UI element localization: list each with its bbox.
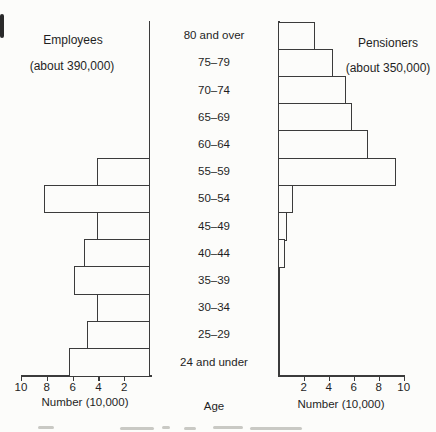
age-label-24-and-under: 24 and under [180,356,248,368]
bar-employees-30-34 [97,294,150,323]
bar-pensioners-65-69 [278,103,352,132]
left-axis-tick-label-6: 6 [69,381,75,393]
right-x-axis-title: Number (10,000) [298,398,385,410]
bar-employees-24-and-under [69,348,150,377]
bar-pensioners-60-64 [278,130,368,159]
right-axis-tick-label-8: 8 [376,381,382,393]
age-label-35-39: 35–39 [198,274,230,286]
bar-employees-25-29 [87,321,150,350]
right-axis-tick-label-4: 4 [326,381,332,393]
bar-employees-55-59 [97,158,150,187]
age-axis-title: Age [204,400,224,412]
left-axis-tick-label-8: 8 [44,381,50,393]
bar-employees-35-39 [74,266,150,295]
age-label-60-64: 60–64 [198,138,230,150]
right-chart-subtitle: (about 350,000) [346,61,431,75]
cropped-caption-fragment [38,426,54,429]
left-axis-tick-label-2: 2 [121,381,127,393]
right-axis-tick-label-6: 6 [351,381,357,393]
age-label-55-59: 55–59 [198,165,230,177]
population-pyramid-figure: Employees (about 390,000) Pensioners (ab… [0,0,436,432]
right-chart-title: Pensioners [358,36,418,50]
cropped-caption-fragment [162,426,170,429]
bar-pensioners-45-49 [278,212,287,241]
age-label-50-54: 50–54 [198,192,230,204]
bar-pensioners-55-59 [278,158,396,187]
left-axis-tick-label-10: 10 [15,381,28,393]
bar-pensioners-70-74 [278,76,346,105]
page-edge-scan-artifact [0,14,4,38]
cropped-caption-fragment [120,427,154,430]
left-x-axis-title: Number (10,000) [42,396,129,408]
bar-pensioners-50-54 [278,185,293,214]
bar-pensioners-80-and-over [278,22,315,51]
age-label-40-44: 40–44 [198,247,230,259]
bar-pensioners-40-44 [278,239,285,268]
right-axis-tick-label-2: 2 [301,381,307,393]
cropped-caption-fragment [213,426,243,429]
age-label-45-49: 45–49 [198,220,230,232]
left-chart-subtitle: (about 390,000) [30,59,115,73]
age-label-70-74: 70–74 [198,84,230,96]
bar-pensioners-75-79 [278,49,333,78]
left-axis-tick-label-4: 4 [95,381,101,393]
age-label-75-79: 75–79 [198,56,230,68]
age-label-65-69: 65–69 [198,111,230,123]
age-label-25-29: 25–29 [198,328,230,340]
right-axis-tick-label-10: 10 [397,381,410,393]
bar-employees-40-44 [84,239,150,268]
bar-employees-45-49 [97,212,150,241]
left-chart-title: Employees [43,33,102,47]
right-chart-baseline-axis [278,375,405,377]
age-label-80-and-over: 80 and over [184,29,245,41]
cropped-caption-fragment [184,427,196,430]
cropped-caption-fragment [250,427,302,430]
bar-employees-50-54 [44,185,150,214]
age-label-30-34: 30–34 [198,301,230,313]
